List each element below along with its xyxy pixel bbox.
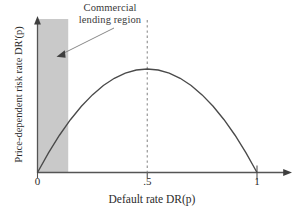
x-tick-label-one: 1 [247, 175, 267, 187]
annotation-line-2: lending region [62, 14, 158, 26]
x-tick-label-0: 0 [28, 175, 48, 187]
annotation-leader-line [62, 28, 114, 54]
commercial-lending-region-label: Commercial lending region [62, 2, 158, 25]
y-axis-title: Price-dependent risk rate DR'(p) [13, 15, 24, 175]
commercial-lending-region-shading [38, 19, 69, 172]
x-axis-title: Default rate DR(p) [0, 193, 304, 205]
annotation-line-1: Commercial [62, 2, 158, 14]
chart-figure: Commercial lending region 0 .5 1 Default… [0, 0, 304, 215]
x-tick-label-half: .5 [137, 175, 157, 187]
x-axis-arrowhead [283, 169, 292, 176]
